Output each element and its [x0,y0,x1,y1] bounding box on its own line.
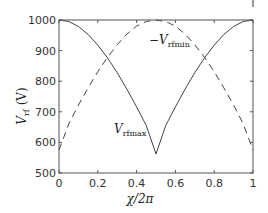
x-tick-label: 1 [250,177,257,190]
y-tick-label: 600 [35,136,56,149]
y-tick-label: 700 [35,106,56,119]
annotation-vrfmin: −Vrfmin [149,33,190,49]
annotation-vrfmax: Vrfmax [114,122,147,138]
x-tick-label: 0.2 [89,177,107,190]
svg-text:Vrf (V): Vrf (V) [15,87,31,124]
x-tick-label: 0.8 [205,177,223,190]
line-chart: 00.20.40.60.815006007008009001000 χ/2π V… [0,0,268,213]
y-tick-label: 800 [35,75,56,88]
x-tick-label: 0.6 [167,177,185,190]
y-axis-label: Vrf (V) [15,87,31,124]
axes: 00.20.40.60.815006007008009001000 [28,14,257,190]
y-tick-label: 500 [35,167,56,180]
x-tick-label: 0 [56,177,63,190]
x-tick-label: 0.4 [128,177,146,190]
y-tick-label: 900 [35,45,56,58]
x-axis-label: χ/2π [126,192,155,206]
y-tick-label: 1000 [28,14,56,27]
